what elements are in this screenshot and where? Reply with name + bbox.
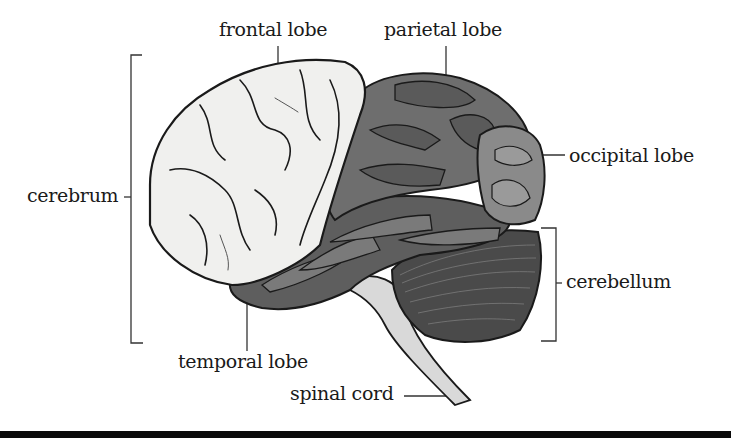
- occipital-lobe: [478, 126, 545, 224]
- brain-diagram: frontal lobe parietal lobe occipital lob…: [0, 0, 731, 438]
- brain-illustration: [0, 0, 731, 438]
- spinal-cord-label: spinal cord: [290, 384, 394, 403]
- parietal-lobe-label: parietal lobe: [384, 20, 502, 39]
- cerebrum-label: cerebrum: [27, 186, 118, 205]
- frontal-lobe-label: frontal lobe: [219, 20, 327, 39]
- bottom-divider-bar: [0, 431, 731, 438]
- cerebrum-bracket: [131, 55, 143, 343]
- occipital-lobe-label: occipital lobe: [569, 146, 694, 165]
- temporal-lobe-label: temporal lobe: [178, 352, 308, 371]
- cerebellum-bracket: [541, 228, 556, 341]
- cerebellum-label: cerebellum: [566, 272, 671, 291]
